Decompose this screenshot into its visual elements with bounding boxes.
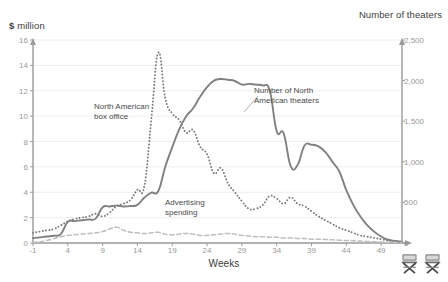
x-tick-label: 34 — [272, 246, 281, 255]
y-tick-label-left: 6 — [8, 162, 28, 171]
annotation-box-office-line1: North American — [94, 102, 149, 112]
y-tick-label-left: 2 — [8, 213, 28, 222]
x-tick-label: 4 — [66, 246, 70, 255]
x-tick-label: 29 — [237, 246, 246, 255]
y-tick-label-right: 2,500 — [404, 36, 430, 45]
y-tick-label-right: 2,000 — [404, 76, 430, 85]
x-tick-label: 19 — [168, 246, 177, 255]
x-tick-label: -1 — [29, 246, 36, 255]
annotation-box-office-line2: box office — [94, 112, 149, 122]
annotation-advertising-line1: Advertising — [165, 198, 205, 208]
series-line-0 — [33, 52, 402, 241]
y-tick-label-left: 4 — [8, 188, 28, 197]
y-tick-label-right: 1,500 — [404, 117, 430, 126]
plot-area — [0, 0, 448, 282]
y-tick-label-right: 1,000 — [404, 157, 430, 166]
directors-chair-icon — [423, 252, 442, 274]
y-tick-label-left: 16 — [8, 36, 28, 45]
x-tick-label: 9 — [100, 246, 104, 255]
x-axis-title: Weeks — [0, 258, 448, 269]
annotation-theaters: Number of North American theaters — [254, 86, 319, 106]
annotation-advertising-line2: spending — [165, 208, 205, 218]
annotation-advertising: Advertising spending — [165, 198, 205, 218]
directors-chair-icons — [400, 252, 442, 274]
x-tick-label: 44 — [342, 246, 351, 255]
y-tick-label-left: 10 — [8, 112, 28, 121]
y-axis-left-ticks: 0246810121416 — [6, 0, 28, 282]
annotation-theaters-line1: Number of North — [254, 86, 319, 96]
directors-chair-icon — [400, 252, 419, 274]
y-tick-label-right: 500 — [404, 198, 430, 207]
series-line-2 — [33, 227, 402, 242]
annotation-box-office: North American box office — [94, 102, 149, 122]
y-tick-label-left: 8 — [8, 137, 28, 146]
x-tick-label: 14 — [133, 246, 142, 255]
y-tick-label-left: 14 — [8, 61, 28, 70]
y-axis-left-arrow — [30, 38, 36, 45]
x-tick-label: 39 — [307, 246, 316, 255]
y-tick-label-left: 12 — [8, 86, 28, 95]
annotation-theaters-line2: American theaters — [254, 96, 319, 106]
chart-container: $ million Number of theaters 02468101214… — [0, 0, 448, 282]
y-axis-right-ticks: 05001,0001,5002,0002,500 — [404, 0, 434, 282]
x-tick-label: 24 — [203, 246, 212, 255]
x-tick-label: 49 — [377, 246, 386, 255]
